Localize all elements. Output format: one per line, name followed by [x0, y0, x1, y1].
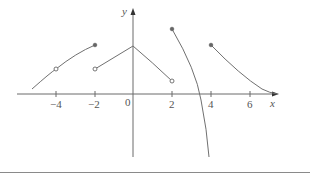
y-axis-arrow-icon — [131, 8, 136, 15]
closed-point-x-4 — [209, 43, 213, 47]
tick-label-2: 2 — [169, 98, 175, 110]
curve-piece-4 — [172, 29, 209, 157]
tick-label-0: 0 — [125, 96, 131, 108]
x-axis-label: x — [269, 97, 275, 109]
tick-label-neg4: −4 — [50, 98, 62, 110]
curve-piece-2 — [95, 46, 133, 69]
closed-point-x-neg2 — [93, 43, 97, 47]
closed-point-x-2 — [170, 27, 174, 31]
tick-label-6: 6 — [247, 98, 253, 110]
curve-piece-3 — [133, 46, 172, 81]
x-tick-labels: −4 −2 0 2 4 6 — [50, 96, 253, 110]
open-point-x-neg4 — [54, 67, 58, 71]
tick-label-4: 4 — [208, 98, 214, 110]
open-point-x-2 — [170, 79, 174, 83]
function-graph: y x −4 −2 0 2 4 6 — [0, 0, 310, 174]
curve-piece-1 — [32, 45, 95, 89]
curve-piece-5 — [211, 45, 277, 94]
y-axis-label: y — [121, 5, 127, 17]
open-point-x-neg2 — [93, 67, 97, 71]
tick-label-neg2: −2 — [88, 98, 100, 110]
